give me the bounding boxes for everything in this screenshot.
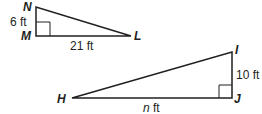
similar-triangles-diagram: N M L 6 ft 21 ft I J H 10 ft n ft [0,0,262,114]
triangle-ijh-shape [72,52,232,98]
triangle-nml: N M L 6 ft 21 ft [10,0,141,53]
vertex-label-i: I [235,43,239,57]
side-label-ij: 10 ft [236,68,260,82]
triangle-ijh: I J H 10 ft n ft [57,43,260,114]
right-angle-marker-j [219,85,232,98]
vertex-label-m: M [21,29,32,43]
vertex-label-l: L [134,29,141,43]
side-label-hj: n ft [143,101,160,114]
side-label-ml: 21 ft [70,39,94,53]
unit-ft: ft [150,101,161,114]
vertex-label-j: J [234,92,241,106]
side-label-nm: 6 ft [10,15,27,29]
right-angle-marker-m [36,22,50,36]
vertex-label-n: N [23,0,32,14]
vertex-label-h: H [57,92,66,106]
